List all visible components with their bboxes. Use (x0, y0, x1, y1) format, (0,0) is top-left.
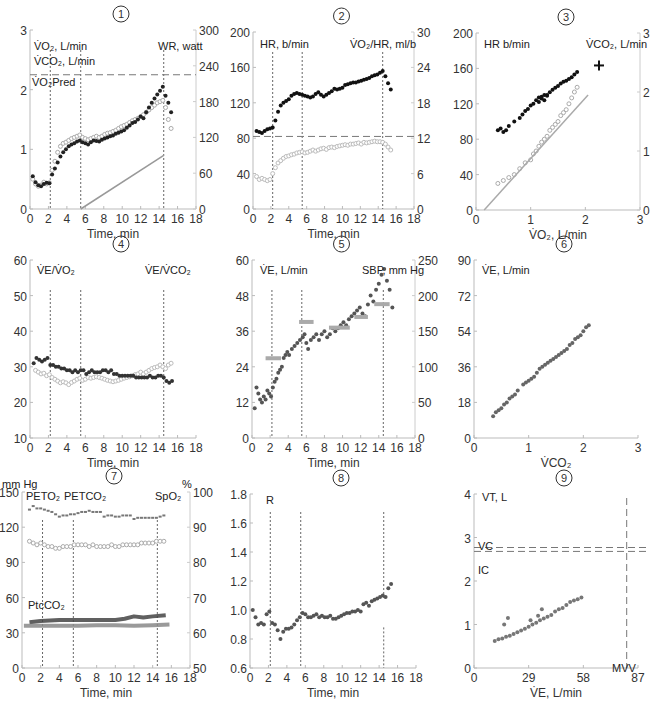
sbp-bar (329, 326, 350, 330)
data-point (499, 406, 503, 410)
data-point (320, 332, 324, 336)
data-point (322, 329, 326, 333)
data-point (290, 625, 294, 629)
sbp-bar (266, 356, 281, 360)
data-point (505, 400, 509, 404)
x-tick-label: 14 (152, 212, 166, 226)
y-tick-label: 1.6 (230, 517, 247, 531)
series-peto- (28, 505, 165, 520)
data-point (388, 288, 392, 292)
y-tick-label: 90 (6, 556, 20, 570)
data-point (77, 512, 80, 514)
x-tick-label: 0 (473, 213, 480, 227)
series-label: V̇CO₂, L/min (586, 38, 647, 50)
data-point (273, 623, 277, 627)
data-point (28, 509, 31, 511)
y-tick-label: 40 (237, 168, 251, 182)
y-tick-label: 90 (458, 254, 472, 268)
y-tick-label: 0 (242, 432, 249, 446)
data-point (384, 595, 388, 599)
data-point (386, 586, 390, 590)
data-point (293, 344, 297, 348)
data-point (515, 630, 519, 634)
data-point (374, 288, 378, 292)
x-tick-label: 14 (146, 671, 160, 685)
x-tick-label: 4 (64, 212, 71, 226)
chart-panel-1: 0246810121416180123060120180240300Time, … (20, 6, 219, 241)
data-point (534, 621, 538, 625)
data-point (281, 630, 285, 634)
x-tick-label: 10 (109, 671, 123, 685)
x-tick-label: 2 (37, 671, 44, 685)
data-point (106, 514, 109, 516)
x-tick-label: 16 (165, 671, 179, 685)
series-label: IC (478, 564, 489, 576)
data-point (140, 517, 143, 519)
data-point (129, 514, 132, 516)
y-tick-label: 3 (464, 532, 471, 546)
x-tick-label: 0 (471, 671, 478, 685)
trend-line (81, 155, 164, 209)
data-point (493, 639, 497, 643)
y2-tick-label: 90 (193, 521, 207, 535)
data-point (564, 603, 568, 607)
x-tick-label: 12 (134, 212, 148, 226)
y-tick-label: 36 (236, 325, 250, 339)
sbp-bar (374, 302, 389, 306)
data-point (295, 341, 299, 345)
data-point (260, 400, 264, 404)
data-point (280, 365, 284, 369)
data-point (504, 128, 508, 132)
x-axis-label: Time, min (307, 686, 359, 700)
data-point (570, 341, 574, 345)
data-point (508, 634, 512, 638)
data-point (366, 303, 370, 307)
data-point (256, 392, 260, 396)
data-point (553, 609, 557, 613)
data-point (164, 106, 168, 110)
y-tick-label: 200 (230, 26, 250, 40)
x-tick-label: 14 (372, 441, 386, 455)
series-spo- (27, 539, 165, 550)
series-petco- (29, 615, 165, 622)
data-point (109, 368, 113, 372)
y-tick-label: 2 (20, 84, 27, 98)
data-point (125, 514, 128, 516)
x-tick-label: 8 (100, 212, 107, 226)
data-point (169, 361, 173, 365)
data-point (46, 356, 50, 360)
data-point (34, 180, 38, 184)
data-point (317, 338, 321, 342)
data-point (61, 150, 65, 154)
x-tick-label: 58 (577, 671, 591, 685)
panel-number: 5 (338, 238, 344, 250)
chart-panel-3: 0123040801201602000123V̇O₂, L/min3HR b/m… (453, 9, 650, 242)
data-point (389, 582, 393, 586)
sbp-bar (299, 320, 313, 324)
y-tick-label: 0 (12, 662, 19, 676)
data-point (43, 509, 46, 511)
data-point (166, 101, 170, 105)
data-point (497, 637, 501, 641)
series-label: V̇CO₂, L/min (34, 55, 95, 67)
data-point (118, 516, 121, 518)
x-tick-label: 29 (522, 671, 536, 685)
data-point (532, 375, 536, 379)
x-tick-label: 12 (354, 212, 368, 226)
x-tick-label: 2 (268, 212, 275, 226)
data-point (58, 154, 62, 158)
figure-canvas: 0246810121416180123060120180240300Time, … (0, 0, 657, 702)
y-tick-label: 1.4 (230, 546, 247, 560)
data-point (65, 514, 68, 516)
data-point (377, 282, 381, 286)
x-tick-label: 16 (390, 441, 404, 455)
data-point (103, 516, 106, 518)
y-tick-label: 36 (458, 361, 472, 375)
panel-number: 6 (561, 238, 567, 250)
data-point (95, 511, 98, 513)
data-point (314, 332, 318, 336)
y-tick-label: 0 (243, 203, 250, 217)
y2-tick-label: 6 (417, 168, 424, 182)
data-point (520, 112, 524, 116)
data-point (581, 329, 585, 333)
